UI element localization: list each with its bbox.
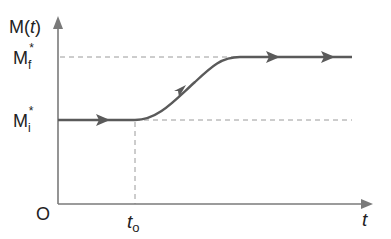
t0-label: to bbox=[127, 211, 140, 235]
y-axis-arrow-icon bbox=[53, 16, 63, 29]
mf-label: Mf* bbox=[13, 41, 34, 72]
x-axis-label: t bbox=[362, 209, 368, 230]
m-curve bbox=[58, 57, 352, 120]
x-axis-arrow-icon bbox=[361, 199, 373, 209]
y-axis-label: M(t) bbox=[9, 17, 41, 37]
diagram-canvas: M(t) Mf* Mi* O to t bbox=[0, 0, 391, 239]
origin-label: O bbox=[36, 204, 50, 224]
mi-label: Mi* bbox=[13, 104, 34, 135]
